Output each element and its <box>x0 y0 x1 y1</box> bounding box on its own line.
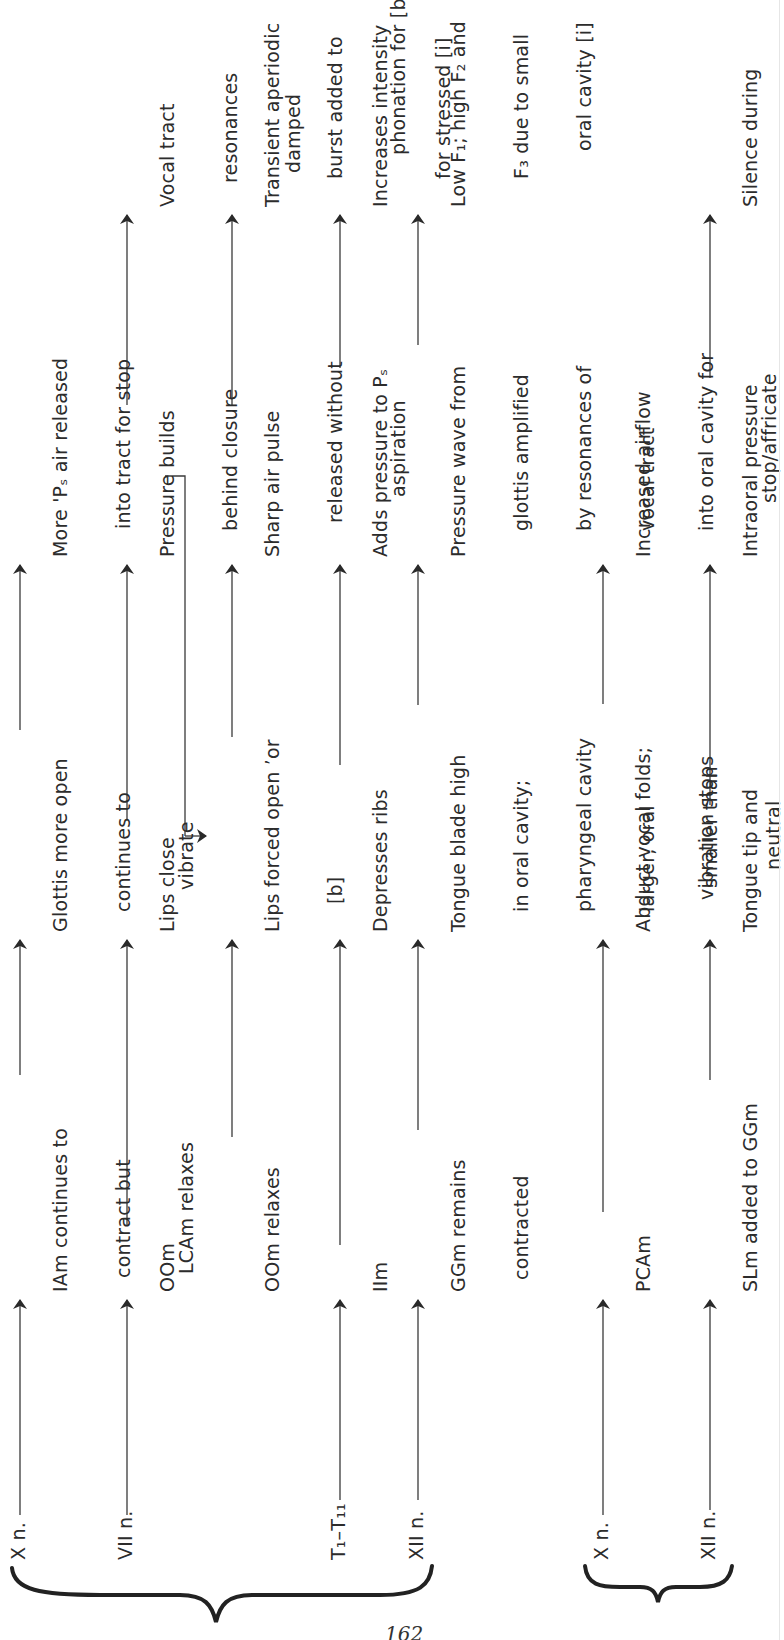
acoustic-label: Low F₁; high F₂ and F₃ due to small oral… <box>406 21 637 207</box>
muscle-label: PCAm <box>591 1235 696 1292</box>
page-number: 162 <box>385 1622 423 1640</box>
brace-group-2 <box>585 1566 732 1602</box>
action-label: Lips close <box>115 837 220 932</box>
nerve-label: XII n. <box>698 1510 719 1560</box>
nerve-label: VII n. <box>115 1510 136 1560</box>
action-label: Tongue tip and blade up ’or alveolar con… <box>698 757 784 932</box>
nerve-label: T₁–T₁₁ <box>328 1503 349 1560</box>
effect-label: Intraoral pressure builds behind occlusi… <box>698 384 784 557</box>
speech-production-flow-diagram: X n. VII n. T₁–T₁₁ XII n. X n. XII n. IA… <box>0 0 784 1640</box>
muscle-label: SLm added to GGm <box>698 1103 784 1292</box>
muscle-label: OOm <box>115 1243 220 1292</box>
muscle-label: GGm remains contracted <box>406 1159 574 1292</box>
nerve-label: X n. <box>591 1522 612 1560</box>
acoustic-label: Silence during closure <box>698 68 784 207</box>
nerve-label: X n. <box>8 1522 29 1560</box>
muscle-label: OOm relaxes <box>220 1167 325 1292</box>
nerve-label: XII n. <box>406 1510 427 1560</box>
brace-group-1 <box>12 1566 432 1622</box>
page-edge <box>779 0 780 1640</box>
